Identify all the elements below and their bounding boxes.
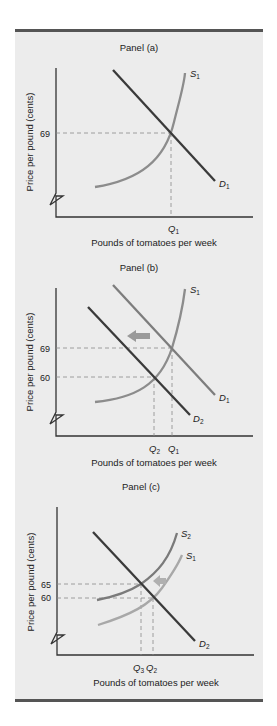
panel-b-label-d1: D1 — [219, 392, 230, 404]
panel-b-x-axis-title: Pounds of tomatoes per week — [91, 457, 217, 468]
panel-a-qtick-q1: Q1 — [168, 223, 179, 235]
panel-a-x-axis-title: Pounds of tomatoes per week — [91, 237, 217, 248]
panel-c-y-axis-title: Price per pound (cents) — [25, 533, 36, 632]
panel-c-label-d2: D2 — [199, 638, 210, 650]
panel-a-demand-d1 — [113, 70, 215, 181]
panel-c-supply-s2 — [97, 533, 177, 600]
panel-b-title: Panel (b) — [120, 262, 159, 273]
panel-b-price-tick-60: 60 — [40, 373, 50, 383]
panel-a-label-s1: S1 — [190, 68, 200, 80]
panel-c-qtick-q2: Q2 — [146, 662, 157, 674]
panel-a-axes — [50, 68, 253, 217]
panel-c-label-s1: S1 — [186, 550, 196, 562]
panel-c-title: Panel (c) — [122, 481, 160, 492]
panel-c-label-s2: S2 — [181, 528, 191, 540]
panel-b-qtick-q1: Q1 — [168, 443, 179, 455]
panel-b-label-s1: S1 — [190, 284, 200, 296]
panel-a-label-d1: D1 — [219, 178, 230, 190]
panel-c: Panel (c) Price per pound (cents) 65 60 … — [25, 481, 254, 688]
panel-b-demand-d1 — [113, 285, 215, 395]
panel-b-qtick-q2: Q2 — [149, 443, 160, 455]
panel-b-label-d2: D2 — [193, 413, 204, 425]
panel-b-demand-d2 — [88, 307, 190, 415]
panel-b-supply-s1 — [95, 289, 185, 402]
panel-a-supply-s1 — [95, 73, 185, 187]
panel-a: Panel (a) Price per pound (cents) 69 S1 … — [24, 42, 253, 248]
panel-a-y-axis-title: Price per pound (cents) — [24, 93, 35, 192]
panel-a-title: Panel (a) — [120, 42, 159, 53]
panel-c-demand-d2 — [93, 532, 195, 641]
panel-b-price-tick-69: 69 — [40, 344, 50, 354]
panel-b-shift-arrow-icon — [127, 330, 150, 342]
panel-c-price-tick-60: 60 — [41, 593, 51, 603]
panel-b-y-axis-title: Price per pound (cents) — [24, 313, 35, 412]
panel-c-x-axis-title: Pounds of tomatoes per week — [93, 677, 219, 688]
panel-c-axes — [51, 507, 254, 655]
panel-b-axes — [50, 288, 253, 436]
panel-c-qtick-q3: Q3 — [133, 662, 144, 674]
panel-a-price-tick: 69 — [40, 129, 50, 139]
panel-c-price-tick-65: 65 — [41, 580, 51, 590]
panel-b: Panel (b) Price per pound (cents) 69 60 … — [24, 262, 253, 468]
supply-demand-figure: Panel (a) Price per pound (cents) 69 S1 … — [0, 0, 277, 726]
